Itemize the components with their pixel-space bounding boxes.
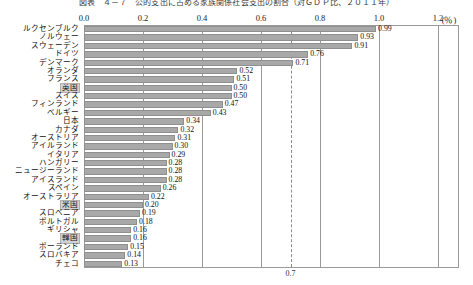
bar [84, 202, 143, 208]
bar [84, 261, 122, 267]
bar [84, 68, 237, 74]
bar [84, 235, 131, 241]
bar-value-label: 0.43 [213, 109, 227, 117]
bar-value-label: 0.71 [295, 59, 309, 67]
bar [84, 135, 175, 141]
bar [84, 168, 167, 174]
bar-chart: 図表 ４－７ 公的支出に占める家族関係社会支出の割合（対ＧＤＰ比、２０１１年） … [0, 0, 473, 285]
x-axis-unit-label: (％) [442, 13, 457, 25]
chart-row: チェコ0.13 [0, 260, 473, 268]
bar-value-label: 0.91 [354, 42, 368, 50]
bar [84, 152, 170, 158]
x-axis-tick-0.6: 0.6 [256, 13, 267, 23]
bar [84, 252, 125, 258]
bar [84, 60, 293, 66]
reference-line-label: 0.7 [286, 269, 296, 278]
bar [84, 194, 149, 200]
bar-value-label: 0.99 [378, 25, 392, 33]
bar [84, 244, 128, 250]
bar [84, 227, 131, 233]
bar [84, 210, 140, 216]
bar [84, 118, 184, 124]
category-label: チェコ [55, 260, 79, 268]
bar [84, 26, 376, 32]
bar [84, 177, 167, 183]
bar [84, 85, 232, 91]
x-axis-tick-0.4: 0.4 [197, 13, 208, 23]
bar [84, 143, 173, 149]
x-axis-tick-1.0: 1.0 [374, 13, 385, 23]
x-axis-tick-0.8: 0.8 [315, 13, 326, 23]
bar-value-label: 0.76 [310, 50, 324, 58]
bar [84, 101, 223, 107]
x-axis-tick-0.0: 0.0 [79, 13, 90, 23]
x-axis-tick-0.2: 0.2 [138, 13, 149, 23]
bar [84, 160, 167, 166]
bar [84, 93, 232, 99]
bar [84, 76, 234, 82]
bar [84, 219, 137, 225]
bar [84, 34, 358, 40]
bar [84, 185, 161, 191]
bar-value-label: 0.13 [124, 260, 138, 268]
chart-title: 図表 ４－７ 公的支出に占める家族関係社会支出の割合（対ＧＤＰ比、２０１１年） [0, 0, 473, 6]
bar [84, 127, 178, 133]
bar [84, 51, 308, 57]
